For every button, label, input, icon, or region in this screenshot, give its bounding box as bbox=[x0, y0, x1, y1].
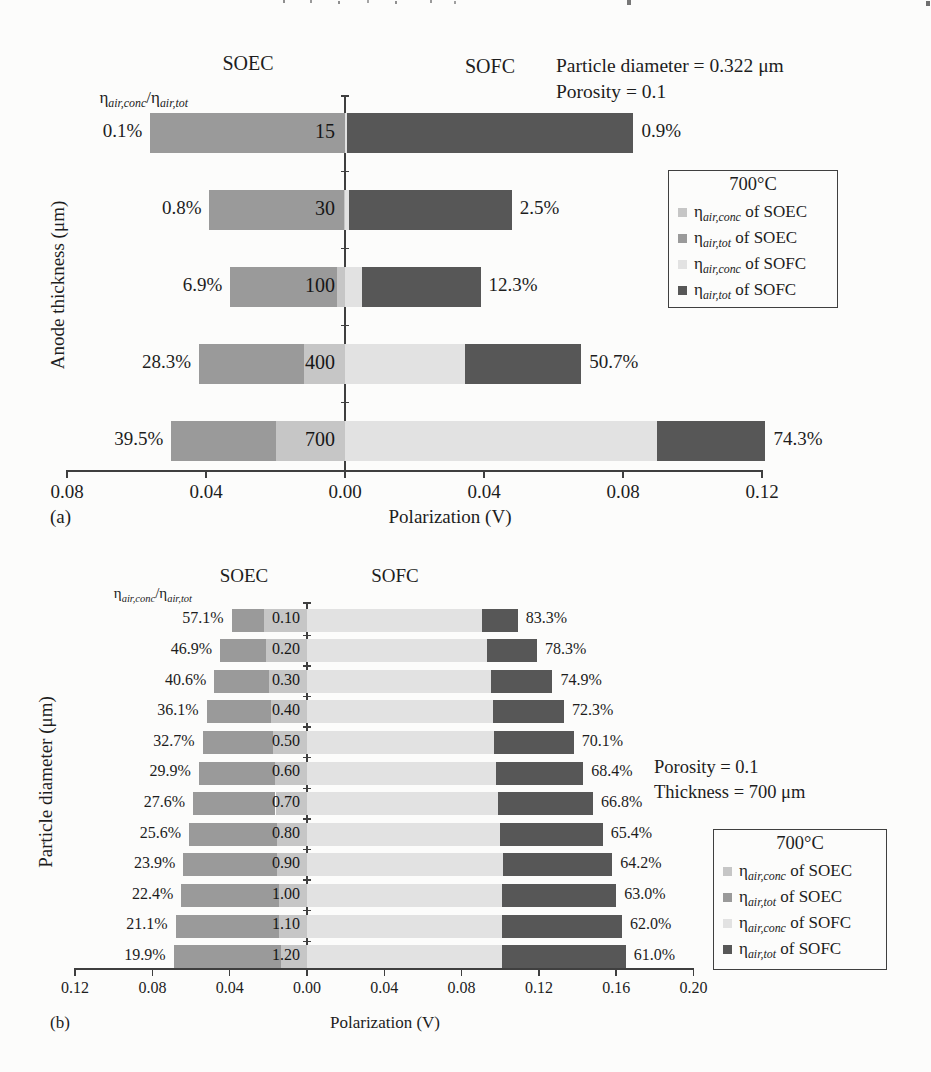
bar-segment-sofc-conc bbox=[345, 267, 362, 307]
bar-segment-sofc-conc bbox=[307, 731, 494, 754]
bar-segment-sofc-conc bbox=[307, 792, 498, 815]
bar-segment-sofc-tot bbox=[487, 639, 537, 662]
pct-label-left: 39.5% bbox=[114, 428, 163, 450]
category-label: 0.10 bbox=[272, 609, 300, 627]
legend-entry: ηair,conc of SOFC bbox=[714, 910, 886, 936]
category-label: 700 bbox=[305, 428, 335, 451]
bar-segment-sofc-conc bbox=[307, 823, 500, 846]
category-label: 0.50 bbox=[272, 732, 300, 750]
legend-marker bbox=[723, 919, 732, 928]
pct-label-right: 62.0% bbox=[630, 915, 671, 933]
pct-label-right: 70.1% bbox=[582, 732, 623, 750]
bar-segment-soec-tot bbox=[199, 344, 304, 384]
bar-segment-sofc-tot bbox=[503, 853, 612, 876]
category-label: 15 bbox=[315, 120, 335, 143]
legend-entry-label: ηair,tot of SOEC bbox=[739, 887, 842, 907]
bar-segment-soec-tot bbox=[189, 823, 277, 846]
zero-axis-tick bbox=[341, 95, 349, 97]
legend-entry: ηair,conc of SOEC bbox=[669, 199, 837, 225]
x-axis-line bbox=[67, 470, 762, 472]
x-tick-mark bbox=[622, 470, 624, 478]
x-tick-label: 0.00 bbox=[272, 979, 342, 997]
bar-segment-sofc-conc bbox=[345, 344, 465, 384]
pct-label-left: 6.9% bbox=[183, 274, 223, 296]
x-tick-label: 0.04 bbox=[195, 979, 265, 997]
x-tick-label: 0.12 bbox=[504, 979, 574, 997]
y-axis-title-b: Particle diameter (μm) bbox=[35, 632, 57, 932]
category-label: 0.70 bbox=[272, 793, 300, 811]
bar-segment-sofc-tot bbox=[349, 190, 512, 230]
x-tick-mark bbox=[461, 968, 463, 976]
pct-label-right: 74.3% bbox=[773, 428, 822, 450]
bar-segment-sofc-tot bbox=[494, 731, 574, 754]
pct-label-left: 23.9% bbox=[134, 854, 175, 872]
pct-label-left: 28.3% bbox=[142, 351, 191, 373]
pct-label-left: 25.6% bbox=[140, 824, 181, 842]
x-tick-mark bbox=[693, 968, 695, 976]
bar-segment-sofc-conc bbox=[307, 945, 502, 968]
bar-segment-soec-tot bbox=[220, 639, 266, 662]
zero-axis-tick bbox=[303, 941, 311, 943]
category-label: 0.60 bbox=[272, 762, 300, 780]
zero-axis-tick bbox=[303, 879, 311, 881]
legend-marker bbox=[678, 260, 687, 269]
zero-axis-tick bbox=[303, 635, 311, 637]
bar-segment-sofc-conc bbox=[307, 639, 487, 662]
category-label: 0.90 bbox=[272, 854, 300, 872]
bar-segment-sofc-tot bbox=[491, 670, 553, 693]
legend-entry: ηair,conc of SOFC bbox=[669, 251, 837, 277]
pct-label-right: 0.9% bbox=[641, 120, 681, 142]
scanned-figure-page: 0.080.040.000.040.080.12150.1%0.9%300.8%… bbox=[0, 0, 931, 1072]
category-label: 1.10 bbox=[272, 915, 300, 933]
pct-label-right: 83.3% bbox=[526, 609, 567, 627]
zero-axis-tick bbox=[341, 248, 349, 250]
panel-letter-b: (b) bbox=[50, 1013, 70, 1033]
bar-segment-soec-tot bbox=[232, 609, 264, 632]
x-tick-label: 0.04 bbox=[171, 481, 241, 503]
pct-label-right: 61.0% bbox=[634, 946, 675, 964]
legend-entry-label: ηair,conc of SOFC bbox=[694, 254, 806, 274]
bar-segment-sofc-conc bbox=[307, 853, 503, 876]
annotation-porosity-b: Porosity = 0.1 bbox=[654, 757, 759, 778]
pct-label-left: 57.1% bbox=[182, 609, 223, 627]
zero-axis-tick bbox=[303, 818, 311, 820]
bar-segment-sofc-tot bbox=[347, 113, 633, 153]
legend-title: 700°C bbox=[714, 833, 886, 858]
soec-column-header-b: SOEC bbox=[184, 565, 304, 587]
bar-segment-sofc-tot bbox=[465, 344, 581, 384]
pct-label-left: 27.6% bbox=[144, 793, 185, 811]
bar-segment-soec-tot bbox=[183, 853, 277, 876]
bar-segment-soec-tot bbox=[214, 670, 269, 693]
annotation-porosity-a: Porosity = 0.1 bbox=[556, 81, 666, 103]
category-label: 0.20 bbox=[272, 640, 300, 658]
zero-axis-tick bbox=[303, 757, 311, 759]
category-label: 400 bbox=[305, 351, 335, 374]
category-label: 100 bbox=[305, 274, 335, 297]
pct-label-right: 66.8% bbox=[601, 793, 642, 811]
pct-label-right: 72.3% bbox=[572, 701, 613, 719]
bar-segment-sofc-conc bbox=[345, 421, 657, 461]
bar-segment-sofc-conc bbox=[307, 700, 493, 723]
pct-label-left: 0.1% bbox=[103, 120, 143, 142]
category-label: 1.20 bbox=[272, 946, 300, 964]
pct-label-right: 65.4% bbox=[611, 824, 652, 842]
soec-column-header-a: SOEC bbox=[188, 52, 308, 75]
category-label: 0.80 bbox=[272, 824, 300, 842]
bar-segment-soec-tot bbox=[174, 945, 281, 968]
legend-entry: ηair,tot of SOEC bbox=[669, 225, 837, 251]
bar-segment-sofc-tot bbox=[493, 700, 564, 723]
bar-segment-soec-tot bbox=[207, 700, 271, 723]
x-tick-label: 0.08 bbox=[117, 979, 187, 997]
legend-entry-label: ηair,tot of SOEC bbox=[694, 228, 797, 248]
zero-axis-tick bbox=[303, 788, 311, 790]
category-label: 0.30 bbox=[272, 671, 300, 689]
legend-entry-label: ηair,conc of SOEC bbox=[739, 861, 852, 881]
bar-segment-soec-tot bbox=[176, 915, 280, 938]
pct-label-left: 0.8% bbox=[162, 197, 202, 219]
pct-label-right: 50.7% bbox=[589, 351, 638, 373]
legend-a: 700°Cηair,conc of SOECηair,tot of SOECηa… bbox=[668, 170, 838, 308]
pct-label-right: 63.0% bbox=[624, 885, 665, 903]
x-tick-label: 0.04 bbox=[349, 979, 419, 997]
legend-entry-label: ηair,conc of SOFC bbox=[739, 913, 851, 933]
annotation-particle-diameter: Particle diameter = 0.322 μm bbox=[556, 55, 784, 77]
